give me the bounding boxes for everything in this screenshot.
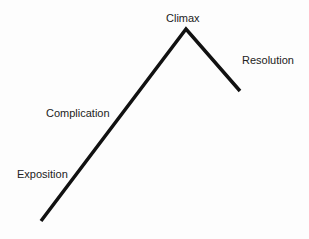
label-climax: Climax (166, 12, 200, 25)
label-complication: Complication (46, 107, 110, 120)
label-resolution: Resolution (242, 54, 294, 67)
label-exposition: Exposition (17, 168, 68, 181)
plot-arc-diagram: Climax Resolution Complication Expositio… (0, 0, 309, 239)
